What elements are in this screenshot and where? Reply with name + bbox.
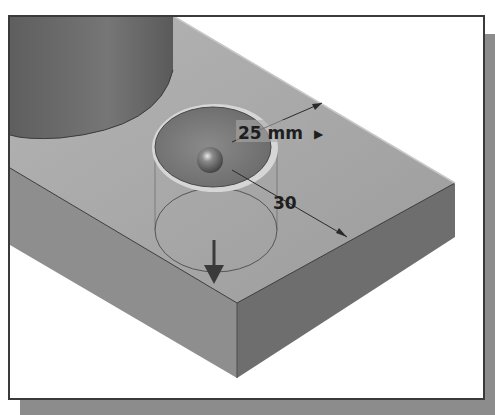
diameter-flyout-arrow-icon[interactable]: ▶ (314, 127, 324, 141)
figure: 25 mm ▶ 30 (0, 0, 495, 415)
sphere-handle-icon[interactable] (197, 147, 223, 173)
distance-label[interactable]: 30 (273, 193, 297, 213)
cad-viewport: 25 mm ▶ 30 (0, 0, 495, 415)
diameter-label[interactable]: 25 mm (238, 123, 303, 143)
